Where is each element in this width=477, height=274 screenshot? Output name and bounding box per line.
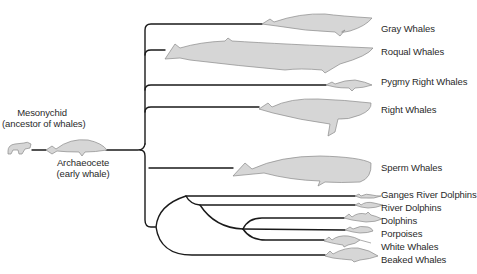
porpoise-icon	[345, 226, 373, 233]
branch-pygmy-right	[145, 85, 326, 90]
archaeocete-icon	[46, 140, 107, 156]
beaked-whale-icon	[325, 248, 378, 262]
branch-ganges	[186, 196, 355, 205]
taxon-label-white: White Whales	[381, 241, 438, 252]
roqual-whale-icon	[165, 38, 373, 73]
mesonychid-icon	[8, 142, 31, 154]
taxon-label-roqual: Roqual Whales	[381, 46, 444, 57]
branch-delphinoid	[200, 205, 243, 229]
branch-dolphins	[243, 218, 344, 229]
archaeocete-branch	[106, 144, 145, 150]
archaeocete-name: Archaeocete	[48, 157, 118, 168]
taxon-label-beaked: Beaked Whales	[381, 254, 446, 265]
narwhal-tusk-icon	[360, 240, 371, 243]
branch-roqual	[145, 50, 165, 55]
taxon-label-dolphins: Dolphins	[381, 215, 417, 226]
mesonychid-name: Mesonychid	[2, 107, 82, 118]
taxon-label-river: River Dolphins	[381, 202, 441, 213]
taxon-label-sperm: Sperm Whales	[381, 162, 442, 173]
taxon-label-porpoises: Porpoises	[381, 228, 422, 239]
lower-trunk	[140, 150, 155, 227]
branch-right	[145, 107, 259, 112]
branch-beaked	[156, 227, 325, 255]
gray-whale-icon	[262, 14, 372, 36]
branch-toothed-root	[156, 196, 355, 227]
dolphin-icon	[344, 212, 382, 222]
white-whale-icon	[324, 236, 360, 247]
mesonychid-label: Mesonychid (ancestor of whales)	[2, 107, 82, 129]
archaeocete-note: (early whale)	[48, 168, 118, 179]
branch-porpoises	[243, 229, 345, 230]
archaeocete-label: Archaeocete (early whale)	[48, 157, 118, 179]
branch-white	[243, 229, 324, 240]
right-whale-icon	[259, 99, 371, 136]
taxon-label-gray: Gray Whales	[381, 23, 435, 34]
ganges-dolphin-icon	[355, 194, 381, 198]
taxon-label-ganges: Ganges River Dolphins	[381, 189, 477, 200]
pygmy-right-whale-icon	[326, 80, 372, 91]
mesonychid-note: (ancestor of whales)	[2, 118, 82, 129]
sperm-whale-icon	[233, 156, 371, 186]
taxon-label-pygmy-right: Pygmy Right Whales	[381, 76, 467, 87]
river-dolphin-icon	[355, 202, 383, 208]
taxon-label-right: Right Whales	[381, 104, 436, 115]
